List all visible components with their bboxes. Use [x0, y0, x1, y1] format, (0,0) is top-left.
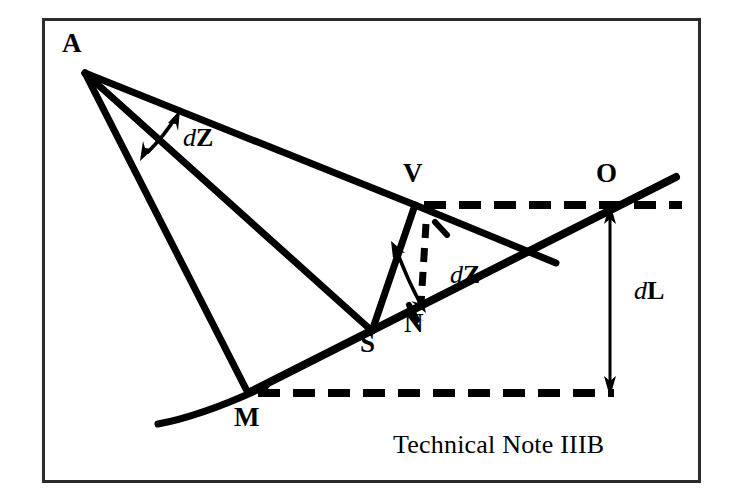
dz-lower-prefix: d	[450, 260, 463, 289]
point-label-o: O	[596, 160, 617, 187]
figure-caption: Technical Note IIIB	[393, 432, 604, 458]
annotation-dl: dL	[634, 278, 664, 304]
figure-frame	[44, 20, 700, 482]
point-label-a: A	[62, 30, 82, 57]
dl-prefix: d	[634, 276, 647, 305]
annotation-dz-upper: dZ	[183, 125, 213, 151]
point-label-n: N	[404, 310, 424, 337]
diagram-canvas	[0, 0, 733, 501]
figure-root: A V O N S M dZ dZ dL Technical Note IIIB	[0, 0, 733, 501]
point-label-s: S	[360, 330, 375, 357]
dl-symbol: L	[647, 276, 664, 305]
dz-upper-prefix: d	[183, 123, 196, 152]
point-label-m: M	[234, 404, 259, 431]
point-label-v: V	[403, 160, 423, 187]
annotation-dz-lower: dZ	[450, 262, 480, 288]
dz-upper-symbol: Z	[196, 123, 213, 152]
dz-lower-symbol: Z	[463, 260, 480, 289]
